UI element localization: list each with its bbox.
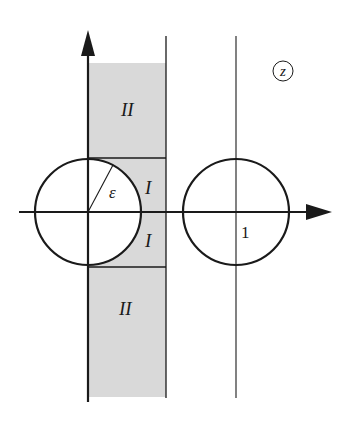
plane-label: z [279,63,286,79]
region-label-upper-outer: II [120,99,135,120]
tick-label-one: 1 [241,223,250,242]
complex-plane-diagram: II I I II ε 1 z [0,0,342,422]
region-label-lower-outer: II [118,298,133,319]
imaginary-axis-arrow-icon [81,30,95,56]
real-axis-arrow-icon [306,204,332,220]
radius-label: ε [109,183,116,202]
